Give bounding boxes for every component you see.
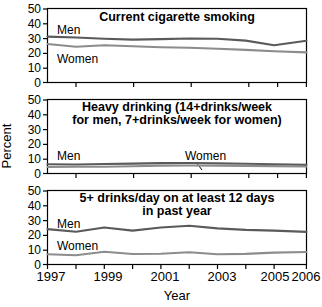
panel1-line-men <box>48 37 307 46</box>
panel1-ytick-0: 0 <box>34 76 41 90</box>
panel2-label-men: Men <box>57 149 80 163</box>
panel2-x-ticks <box>76 174 306 179</box>
panel2-ytick-40: 40 <box>28 108 42 122</box>
panel3-ytick-10: 10 <box>28 243 42 257</box>
panel-heavy-drinking: 50 40 30 20 10 0 Heavy drinking (14+drin… <box>28 93 307 181</box>
panel2-ytick-30: 30 <box>28 123 42 137</box>
panel-current-cigarette-smoking: 50 40 30 20 10 0 Current cigarette smoki… <box>28 2 307 90</box>
panel3-title-line2: in past year <box>142 204 212 218</box>
panel3-ytick-30: 30 <box>28 214 42 228</box>
panel3-ytick-20: 20 <box>28 228 42 242</box>
xtick-2003: 2003 <box>208 269 237 284</box>
panel1-label-men: Men <box>57 23 80 37</box>
xtick-2005: 2005 <box>261 269 290 284</box>
panel1-ytick-20: 20 <box>28 46 42 60</box>
panel3-line-men <box>48 226 307 232</box>
multi-panel-line-chart: Percent 50 40 30 20 10 0 <box>0 0 322 307</box>
panel1-ytick-30: 30 <box>28 32 42 46</box>
x-axis-label: Year <box>164 288 191 303</box>
panel2-ytick-10: 10 <box>28 152 42 166</box>
panel3-label-women: Women <box>57 239 98 253</box>
panel3-label-men: Men <box>57 217 80 231</box>
panel2-label-women: Women <box>185 149 226 163</box>
chart-figure: Percent 50 40 30 20 10 0 <box>0 0 322 307</box>
panel1-label-women: Women <box>57 52 98 66</box>
panel3-title-line1: 5+ drinks/day on at least 12 days <box>80 191 275 205</box>
panel1-ytick-10: 10 <box>28 61 42 75</box>
xtick-1999: 1999 <box>94 269 123 284</box>
panel3-ytick-50: 50 <box>28 184 42 198</box>
panel2-line-women <box>48 166 307 168</box>
xtick-1997: 1997 <box>37 269 66 284</box>
panel1-ytick-50: 50 <box>28 2 42 16</box>
panel2-ytick-50: 50 <box>28 93 42 107</box>
panel2-ytick-0: 0 <box>34 167 41 181</box>
panel3-ytick-40: 40 <box>28 199 42 213</box>
xtick-2001: 2001 <box>151 269 180 284</box>
y-axis-label: Percent <box>0 123 14 168</box>
panel3-x-tick-labels: 1997 1999 2001 2003 2005 2006 <box>37 269 321 284</box>
panel1-y-ticks: 50 40 30 20 10 0 <box>28 2 48 90</box>
y-axis-label-text: Percent <box>0 123 14 168</box>
panel1-title: Current cigarette smoking <box>99 10 255 24</box>
panel2-ytick-20: 20 <box>28 137 42 151</box>
panel1-ytick-40: 40 <box>28 17 42 31</box>
panel-five-plus-drinks: 50 40 30 20 10 0 5+ drinks/day on at lea… <box>28 184 321 303</box>
panel2-title-line2: for men, 7+drinks/week for women) <box>72 113 281 127</box>
panel3-y-ticks: 50 40 30 20 10 0 <box>28 184 48 272</box>
xtick-2006: 2006 <box>292 269 321 284</box>
panel2-title-line1: Heavy drinking (14+drinks/week <box>82 100 272 114</box>
panel2-y-ticks: 50 40 30 20 10 0 <box>28 93 48 181</box>
panel1-x-ticks <box>76 83 306 88</box>
